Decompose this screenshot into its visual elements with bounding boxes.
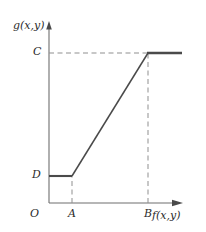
x-tick-label-a: A <box>68 208 76 219</box>
function-curve-group <box>49 53 182 176</box>
y-axis-label: g(x,y) <box>13 20 45 31</box>
function-plot-figure: g(x,y) f(x,y) O A B C D <box>0 0 206 232</box>
x-tick-label-b: B <box>144 208 152 219</box>
guide-lines-group <box>49 53 148 203</box>
y-tick-label-d: D <box>32 169 41 180</box>
curve-segment-ramp <box>72 53 148 176</box>
y-tick-label-c: C <box>33 46 41 57</box>
x-axis-label: f(x,y) <box>152 210 181 221</box>
y-axis-arrowhead <box>46 21 52 30</box>
origin-label: O <box>30 208 39 219</box>
x-axis-arrowhead <box>172 200 183 206</box>
axes-group <box>46 21 183 206</box>
plot-canvas <box>0 0 206 232</box>
